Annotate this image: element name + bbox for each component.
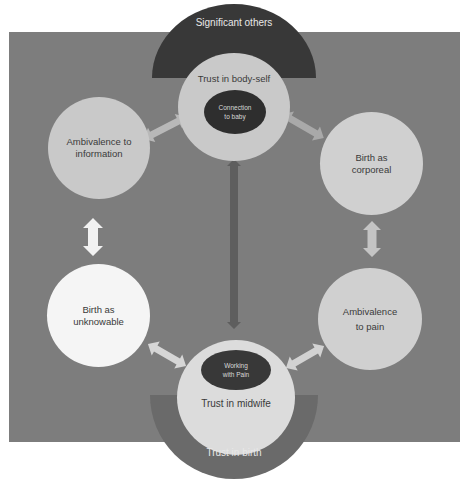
birth-as-unknowable-node: Birth as unknowable bbox=[47, 264, 150, 367]
ambivalence-to-information-node: Ambivalence to information bbox=[48, 97, 150, 199]
birth-corporeal-line1: Birth as bbox=[355, 152, 387, 164]
birth-as-corporeal-node: Birth as corporeal bbox=[320, 112, 423, 215]
arrow-unknowable-midwife bbox=[144, 337, 190, 373]
working-with-pain-node: Working with Pain bbox=[201, 350, 271, 390]
trust-in-midwife-label: Trust in midwife bbox=[201, 398, 271, 410]
ambivalence-to-pain-node: Ambivalence to pain bbox=[318, 268, 422, 370]
trust-in-birth-label: Trust in birth bbox=[184, 447, 284, 459]
arrow-pain-midwife bbox=[282, 339, 328, 375]
ambivalence-pain-line2: to pain bbox=[356, 321, 385, 333]
arrow-corporeal-pain bbox=[363, 221, 381, 257]
significant-others-label: Significant others bbox=[184, 17, 284, 29]
connection-to-baby-line1: Connection bbox=[219, 103, 252, 112]
birth-unknowable-line2: unknowable bbox=[73, 316, 124, 328]
trust-in-body-self-label: Trust in body-self bbox=[198, 73, 271, 85]
arrow-bodyself-midwife bbox=[227, 159, 241, 329]
connection-to-baby-node: Connection to baby bbox=[204, 90, 266, 134]
ambivalence-information-line1: Ambivalence to bbox=[67, 136, 132, 148]
birth-corporeal-line2: corporeal bbox=[352, 164, 392, 176]
ambivalence-information-line2: information bbox=[76, 148, 123, 160]
birth-unknowable-line1: Birth as bbox=[82, 304, 114, 316]
diagram-canvas: Significant others Trust in body-self Co… bbox=[0, 0, 469, 483]
working-with-pain-line2: with Pain bbox=[223, 370, 249, 379]
ambivalence-pain-line1: Ambivalence bbox=[343, 306, 397, 318]
connection-to-baby-line2: to baby bbox=[224, 112, 245, 121]
arrow-information-unknowable bbox=[83, 218, 103, 256]
working-with-pain-line1: Working bbox=[224, 361, 248, 370]
